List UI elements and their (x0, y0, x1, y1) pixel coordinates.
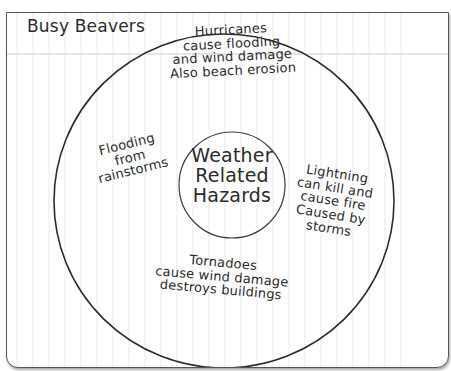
notebook-paper: Busy Beavers Weather Related Hazards Hur… (6, 12, 449, 368)
center-label: Weather Related Hazards (177, 146, 287, 206)
item-lightning: Lightning can kill and cause fire Caused… (285, 161, 381, 242)
item-hurricanes: Hurricanes cause flooding and wind damag… (161, 19, 304, 81)
page-title: Busy Beavers (27, 18, 145, 36)
